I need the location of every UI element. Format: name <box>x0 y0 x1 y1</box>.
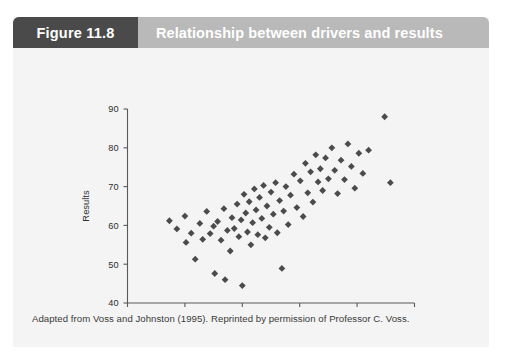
data-point <box>244 229 251 236</box>
data-point <box>224 227 231 234</box>
data-point <box>235 233 242 240</box>
data-point <box>196 220 203 227</box>
data-point <box>274 229 281 236</box>
data-point <box>304 189 311 196</box>
data-point <box>272 179 279 186</box>
figure-panel: Figure 11.8 Relationship between drivers… <box>13 17 489 347</box>
data-point <box>260 182 267 189</box>
data-point <box>300 213 307 220</box>
data-point <box>345 141 352 148</box>
data-point <box>256 194 263 201</box>
data-point <box>341 176 348 183</box>
figure-number-tag: Figure 11.8 <box>13 17 138 48</box>
x-axis-ticks: 405060708090 <box>122 303 419 308</box>
data-point <box>312 151 319 158</box>
figure-title: Relationship between drivers and results <box>138 17 489 48</box>
data-point <box>210 223 217 230</box>
data-point <box>222 276 229 283</box>
scatter-plot-svg: 405060708090 405060708090 Results Driver… <box>13 48 489 308</box>
data-point <box>249 219 256 226</box>
data-point <box>173 225 180 232</box>
data-point <box>268 189 275 196</box>
figure-title-text: Relationship between drivers and results <box>156 25 443 41</box>
data-point <box>334 190 341 197</box>
y-tick-label-90: 90 <box>108 104 118 114</box>
data-point <box>285 221 292 228</box>
y-tick-label-60: 60 <box>108 221 118 231</box>
axes-group <box>128 109 415 303</box>
data-point <box>387 179 394 186</box>
data-point <box>239 282 246 289</box>
data-points-group <box>166 113 394 289</box>
data-point <box>211 270 218 277</box>
data-point <box>207 230 214 237</box>
scatter-chart: 405060708090 405060708090 Results Driver… <box>13 48 489 308</box>
data-point <box>328 144 335 151</box>
data-point <box>246 198 253 205</box>
data-point <box>302 160 309 167</box>
y-axis-ticks: 405060708090 <box>108 104 127 308</box>
data-point <box>351 185 358 192</box>
data-point <box>248 241 255 248</box>
data-point <box>365 147 372 154</box>
data-point <box>188 230 195 237</box>
y-tick-label-40: 40 <box>108 298 118 308</box>
data-point <box>322 154 329 161</box>
data-point <box>183 239 190 246</box>
data-point <box>227 248 234 255</box>
figure-number-label: Figure 11.8 <box>37 25 115 41</box>
data-point <box>242 210 249 217</box>
data-point <box>254 231 261 238</box>
data-point <box>348 163 355 170</box>
data-point <box>253 206 260 213</box>
data-point <box>359 170 366 177</box>
data-point <box>221 205 228 212</box>
data-point <box>203 208 210 215</box>
data-point <box>319 187 326 194</box>
data-point <box>276 197 283 204</box>
data-point <box>258 215 265 222</box>
data-point <box>317 165 324 172</box>
data-point <box>270 211 277 218</box>
data-point <box>355 150 362 157</box>
data-point <box>182 213 189 220</box>
data-point <box>166 217 173 224</box>
data-point <box>192 256 199 263</box>
data-point <box>297 177 304 184</box>
y-tick-label-50: 50 <box>108 260 118 270</box>
data-point <box>291 171 298 178</box>
data-point <box>280 208 287 215</box>
data-point <box>251 186 258 193</box>
data-point <box>214 218 221 225</box>
data-point <box>279 265 286 272</box>
data-point <box>315 179 322 186</box>
data-point <box>231 225 238 232</box>
data-point <box>307 168 314 175</box>
y-axis-title: Results <box>80 190 91 222</box>
data-point <box>266 224 273 231</box>
data-point <box>287 192 294 199</box>
data-point <box>241 191 248 198</box>
data-point <box>262 234 269 241</box>
data-point <box>283 183 290 190</box>
y-tick-label-70: 70 <box>108 182 118 192</box>
data-point <box>338 157 345 164</box>
data-point <box>238 217 245 224</box>
data-point <box>325 175 332 182</box>
data-point <box>310 199 317 206</box>
data-point <box>331 167 338 174</box>
figure-header: Figure 11.8 Relationship between drivers… <box>13 17 489 48</box>
y-tick-label-80: 80 <box>108 143 118 153</box>
data-point <box>381 113 388 120</box>
data-point <box>229 214 236 221</box>
data-point <box>199 236 206 243</box>
data-point <box>264 203 271 210</box>
data-point <box>234 201 241 208</box>
figure-caption: Adapted from Voss and Johnston (1995). R… <box>32 313 409 324</box>
data-point <box>293 204 300 211</box>
data-point <box>218 237 225 244</box>
